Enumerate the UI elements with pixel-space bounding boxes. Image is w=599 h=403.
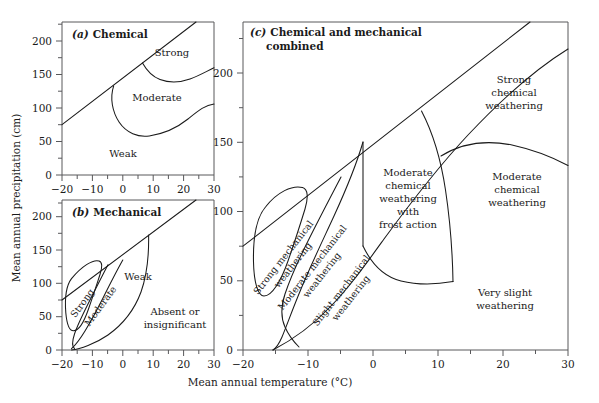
panel-b-zone-absent-line2: insignificant: [144, 319, 207, 330]
panel-b-name: Mechanical: [93, 206, 161, 218]
panel-a-xtick-20: 20: [177, 183, 190, 195]
panel-c-zone-frost-line5: frost action: [379, 219, 438, 230]
panel-c-xtick-m10: −10: [297, 358, 319, 370]
panel-b-ytick-100: 100: [32, 277, 52, 289]
panel-b-xtick-20: 20: [177, 358, 190, 370]
panel-c-ytick-150: 150: [213, 136, 233, 148]
panel-c-saturation-line: [243, 22, 530, 246]
panel-c-zone-moderate-chemical: Moderate chemical weathering: [488, 171, 546, 208]
panel-b-letter: (b): [72, 206, 89, 218]
panel-c-zone-very-slight-line2: weathering: [476, 300, 534, 311]
panel-c-zone-strong-chem-line2: chemical: [491, 87, 536, 98]
y-axis-title: Mean annual precipitation (cm): [10, 114, 22, 283]
panel-c-xtick-0: 0: [370, 358, 377, 370]
panel-c-zone-mod-chem-line2: chemical: [494, 184, 539, 195]
panel-a-moderate-strong-boundary: [143, 63, 215, 82]
panel-c-zone-strong-chem-line1: Strong: [497, 74, 532, 85]
panel-c-zone-strong-chemical: Strong chemical weathering: [485, 74, 543, 111]
panel-a-name: Chemical: [93, 28, 148, 40]
panel-a-title: (a)Chemical: [72, 28, 148, 40]
panel-a-ytick-50: 50: [39, 135, 52, 147]
panel-b-y-ticks: [56, 203, 62, 350]
panel-c-ytick-200: 200: [213, 67, 233, 79]
panel-a-xtick-0: 0: [119, 183, 126, 195]
panel-c-zone-frost-line1: Moderate: [383, 167, 432, 178]
panel-c-zone-frost-line2: chemical: [385, 180, 430, 191]
panel-c-xtick-m20: −20: [232, 358, 254, 370]
panel-a-letter: (a): [72, 28, 89, 40]
panel-a-zone-moderate: Moderate: [132, 92, 181, 103]
panel-c-y-ticks: [237, 39, 243, 351]
panel-c-title: (c)Chemical and mechanical: [250, 26, 422, 38]
panel-a-ytick-0: 0: [45, 169, 52, 181]
panel-a-y-ticks: [56, 24, 62, 175]
panel-b-xtick-0: 0: [119, 358, 126, 370]
panel-c-name: Chemical and mechanical: [270, 26, 421, 38]
panel-b-x-ticks: [62, 350, 214, 356]
panel-c-zone-frost-action: Moderate chemical weathering with frost …: [379, 167, 438, 230]
panel-b-zone-weak: Weak: [124, 271, 152, 282]
panel-c-ytick-0: 0: [226, 344, 233, 356]
panel-a-xtick-m20: −20: [51, 183, 73, 195]
panel-a-ytick-150: 150: [32, 68, 52, 80]
panel-a-ytick-200: 200: [32, 35, 52, 47]
weathering-regimes-figure: 0 50 100 150 200 −20 −10 0 10 20 30 (a)C…: [0, 0, 599, 403]
panel-c-ytick-50: 50: [220, 274, 233, 286]
figure-canvas: 0 50 100 150 200 −20 −10 0 10 20 30 (a)C…: [0, 0, 599, 403]
panel-a-x-ticks: [62, 175, 214, 181]
panel-b-title: (b)Mechanical: [72, 206, 161, 218]
panel-c-zone-mod-chem-line3: weathering: [488, 197, 546, 208]
panel-c-zone-very-slight-line1: Very slight: [477, 287, 532, 298]
panel-b-xtick-m20: −20: [51, 358, 73, 370]
panel-b-xtick-10: 10: [147, 358, 160, 370]
x-axis-title: Mean annual temperature (°C): [188, 376, 352, 388]
panel-c-zone-very-slight: Very slight weathering: [476, 287, 534, 311]
panel-c-zone-frost-line4: with: [397, 206, 420, 217]
panel-c-xtick-30: 30: [561, 358, 574, 370]
panel-c-zone-frost-line3: weathering: [379, 193, 437, 204]
panel-a-zone-weak: Weak: [109, 148, 137, 159]
panel-c-title-line2: combined: [266, 40, 324, 52]
panel-b-xtick-m10: −10: [81, 358, 103, 370]
panel-b: 0 50 100 150 200 −20 −10 0 10 20 30 (b)M…: [32, 200, 221, 370]
panel-a-xtick-m10: −10: [81, 183, 103, 195]
panel-c-zone-mod-chem-line1: Moderate: [492, 171, 541, 182]
panel-c-ytick-100: 100: [213, 205, 233, 217]
panel-b-zone-absent-line1: Absent or: [149, 306, 199, 317]
panel-a-xtick-30: 30: [207, 183, 220, 195]
panel-b-ytick-50: 50: [39, 310, 52, 322]
panel-c: 0 50 100 150 200 −20 −10 0 10 20 30: [213, 0, 575, 370]
panel-a: 0 50 100 150 200 −20 −10 0 10 20 30 (a)C…: [32, 22, 221, 195]
panel-c-xtick-10: 10: [431, 358, 444, 370]
panel-c-strong-moderate-chemical-boundary: [441, 143, 568, 166]
panel-a-zone-strong: Strong: [155, 47, 190, 58]
panel-b-ytick-0: 0: [45, 344, 52, 356]
panel-b-ytick-200: 200: [32, 210, 52, 222]
panel-c-frost-lower-arc: [363, 246, 453, 284]
panel-a-xtick-10: 10: [147, 183, 160, 195]
panel-c-letter: (c): [250, 26, 266, 38]
panel-c-xtick-20: 20: [496, 358, 509, 370]
panel-b-ytick-150: 150: [32, 244, 52, 256]
panel-b-xtick-30: 30: [207, 358, 220, 370]
panel-a-ytick-100: 100: [32, 102, 52, 114]
panel-c-zone-strong-chem-line3: weathering: [485, 100, 543, 111]
panel-c-x-ticks: [243, 350, 568, 356]
